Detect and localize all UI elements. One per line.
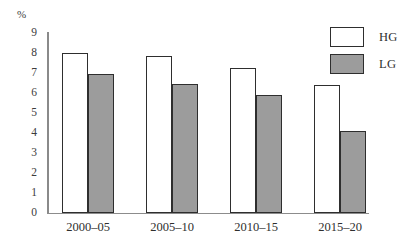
bar-hg-2005-10 — [146, 56, 172, 213]
x-axis-category-labels: 2000–05 2005–10 2010–15 2015–20 — [0, 220, 414, 240]
legend-label-hg: HG — [379, 30, 398, 44]
legend-label-lg: LG — [379, 57, 396, 71]
bar-lg-2000-05 — [88, 74, 114, 213]
legend-item-hg: HG — [329, 27, 411, 48]
x-label-2000-05: 2000–05 — [43, 220, 133, 234]
chart-legend: HG LG — [329, 27, 411, 79]
x-label-2010-15: 2010–15 — [211, 220, 301, 234]
bar-hg-2010-15 — [230, 68, 256, 213]
legend-swatch-hg-icon — [330, 27, 364, 47]
bar-lg-2005-10 — [172, 84, 198, 213]
bar-hg-2015-20 — [314, 85, 340, 213]
bar-lg-2010-15 — [256, 95, 282, 213]
bar-hg-2000-05 — [62, 53, 88, 213]
x-label-2015-20: 2015–20 — [295, 220, 385, 234]
bar-lg-2015-20 — [340, 131, 366, 213]
bar-chart: % 9 8 7 6 5 4 3 2 1 0 2000–05 2005–10 20… — [0, 0, 414, 247]
legend-swatch-lg-icon — [330, 54, 364, 74]
x-label-2005-10: 2005–10 — [127, 220, 217, 234]
legend-item-lg: LG — [329, 54, 411, 75]
